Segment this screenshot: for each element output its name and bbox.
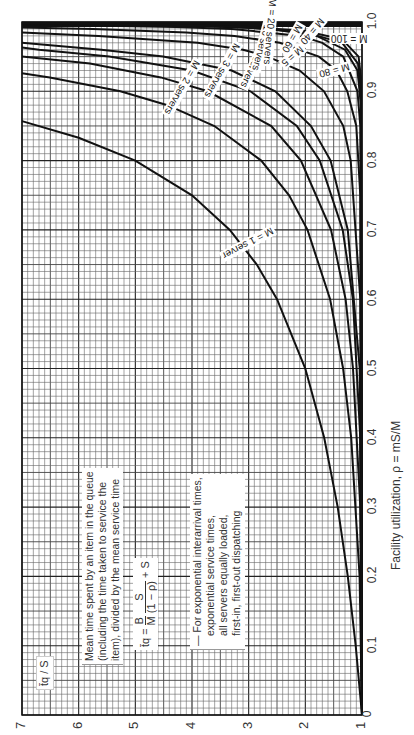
x-tick: 0.6 bbox=[365, 290, 379, 307]
curve-label: M = 100 bbox=[329, 33, 369, 44]
y-axis-label: t̄q / S bbox=[36, 656, 54, 690]
y-tick: 7 bbox=[13, 722, 28, 729]
x-tick: 0.1 bbox=[365, 636, 379, 653]
x-tick: 0.7 bbox=[365, 221, 379, 238]
y-tick: 3 bbox=[240, 722, 255, 729]
x-tick: 0.5 bbox=[365, 359, 379, 376]
x-axis-label: Facility utilization, ρ = mS/M bbox=[389, 421, 403, 570]
x-tick: 0 bbox=[360, 711, 374, 718]
y-tick: 4 bbox=[183, 722, 198, 729]
x-tick: 0.9 bbox=[365, 82, 379, 99]
x-tick: 1.0 bbox=[365, 13, 379, 30]
assumptions-note: — For exponential interarrival times, ex… bbox=[190, 474, 245, 650]
chart-description: Mean time spent by an item in the queue … bbox=[82, 468, 123, 665]
x-tick: 0.2 bbox=[365, 567, 379, 584]
x-tick: 0.8 bbox=[365, 151, 379, 168]
y-tick: 6 bbox=[70, 722, 85, 729]
formula: t̄q = B M S (1 − ρ) + S bbox=[133, 558, 158, 650]
y-tick: 2 bbox=[296, 722, 311, 729]
y-tick: 5 bbox=[126, 722, 141, 729]
x-tick: 0.4 bbox=[365, 428, 379, 445]
y-tick: 1 bbox=[353, 722, 368, 729]
x-tick: 0.3 bbox=[365, 498, 379, 515]
